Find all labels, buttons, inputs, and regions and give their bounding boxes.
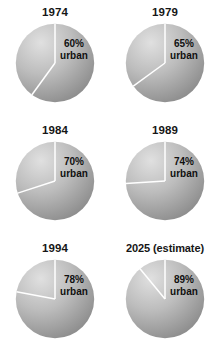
- pie-svg: [125, 23, 205, 103]
- pie-graphic: [15, 259, 95, 339]
- pie-svg: [125, 141, 205, 221]
- pie-year-label: 1984: [0, 123, 110, 137]
- pie-chart-2025-estimate-: 2025 (estimate)89%urban: [110, 236, 220, 355]
- pie-chart-1979: 197965%urban: [110, 0, 220, 118]
- pie-graphic: [15, 141, 95, 221]
- pie-year-label: 1994: [0, 241, 110, 255]
- pie-graphic: [125, 141, 205, 221]
- pie-year-label: 1979: [110, 5, 220, 19]
- pie-year-label: 1974: [0, 5, 110, 19]
- pie-chart-1989: 198974%urban: [110, 118, 220, 236]
- pie-chart-1994: 199478%urban: [0, 236, 110, 355]
- pie-svg: [15, 141, 95, 221]
- pie-year-label: 1989: [110, 123, 220, 137]
- pie-chart-1984: 198470%urban: [0, 118, 110, 236]
- pie-graphic: [15, 23, 95, 103]
- pie-svg: [125, 259, 205, 339]
- pie-svg: [15, 259, 95, 339]
- pie-chart-grid: 197460%urban197965%urban198470%urban1989…: [0, 0, 220, 355]
- pie-year-label: 2025 (estimate): [110, 241, 220, 255]
- pie-graphic: [125, 259, 205, 339]
- pie-graphic: [125, 23, 205, 103]
- pie-chart-1974: 197460%urban: [0, 0, 110, 118]
- pie-svg: [15, 23, 95, 103]
